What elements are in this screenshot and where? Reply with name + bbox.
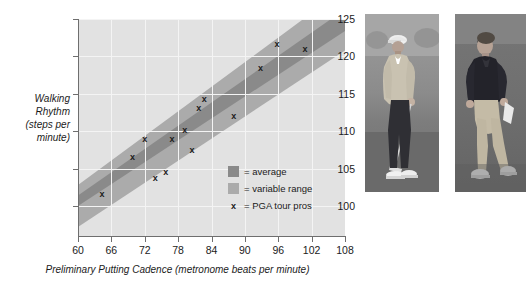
y-axis-tick-label: 110 <box>291 125 355 137</box>
legend-item-pga-tour-pros: x = PGA tour pros <box>228 197 312 214</box>
y-axis-title-line: minute) <box>0 131 70 144</box>
x-axis-tick <box>111 236 112 242</box>
data-point-marker: x <box>142 135 147 144</box>
x-axis-tick-label: 66 <box>96 244 126 256</box>
figure-root: xxxxxxxxxxxxxx 1001051101151201256066727… <box>0 0 529 288</box>
legend-item-variable-range: = variable range <box>228 180 312 197</box>
legend-label-pga-tour-pros: = PGA tour pros <box>244 200 312 211</box>
y-axis-tick <box>73 19 79 20</box>
y-axis-tick <box>73 131 79 132</box>
data-point-marker: x <box>130 152 135 161</box>
x-axis-tick <box>245 236 246 242</box>
y-axis-tick-label: 115 <box>291 88 355 100</box>
x-axis-tick <box>278 236 279 242</box>
x-axis-tick <box>78 236 79 242</box>
x-axis-title: Preliminary Putting Cadence (metronome b… <box>0 264 355 275</box>
x-axis-tick-label: 102 <box>297 244 327 256</box>
data-point-marker: x <box>275 40 280 49</box>
chart-legend: = average = variable range x = PGA tour … <box>228 163 312 214</box>
x-axis-tick-label: 96 <box>263 244 293 256</box>
legend-label-variable-range: = variable range <box>244 183 312 194</box>
data-point-marker: x <box>258 64 263 73</box>
data-point-marker: x <box>169 134 174 143</box>
y-axis-title: WalkingRhythm(steps perminute) <box>0 92 70 144</box>
data-point-marker: x <box>163 167 168 176</box>
legend-item-average: = average <box>228 163 312 180</box>
y-axis-tick <box>73 206 79 207</box>
y-axis-tick-label: 125 <box>291 13 355 25</box>
x-axis-tick <box>145 236 146 242</box>
data-point-marker: x <box>202 95 207 104</box>
legend-label-average: = average <box>244 166 287 177</box>
y-axis-title-line: Walking <box>0 92 70 105</box>
x-axis-tick <box>178 236 179 242</box>
y-axis-title-line: Rhythm <box>0 105 70 118</box>
photo-2-graphic <box>455 14 526 192</box>
data-point-marker: x <box>182 125 187 134</box>
y-axis-tick-label: 120 <box>291 50 355 62</box>
y-axis-tick <box>73 169 79 170</box>
x-axis-tick-label: 90 <box>230 244 260 256</box>
x-axis-tick-label: 72 <box>130 244 160 256</box>
x-axis-tick <box>345 236 346 242</box>
data-point-marker: x <box>196 104 201 113</box>
scatter-chart: xxxxxxxxxxxxxx 1001051101151201256066727… <box>0 0 355 288</box>
x-axis-tick-label: 60 <box>63 244 93 256</box>
photo-golfer-standing-with-putter <box>365 14 439 192</box>
x-axis-tick <box>212 236 213 242</box>
x-axis-tick <box>312 236 313 242</box>
legend-swatch-variable-range <box>228 183 239 194</box>
data-point-marker: x <box>190 145 195 154</box>
y-axis-line <box>78 19 79 236</box>
data-point-marker: x <box>99 190 104 199</box>
photo-1-graphic <box>365 14 439 192</box>
y-axis-tick <box>73 56 79 57</box>
x-axis-tick-label: 108 <box>330 244 360 256</box>
x-axis-tick-label: 78 <box>163 244 193 256</box>
photo-golfer-walking <box>455 14 526 192</box>
x-axis-tick-label: 84 <box>197 244 227 256</box>
data-point-marker: x <box>153 173 158 182</box>
data-point-marker: x <box>231 112 236 121</box>
y-axis-tick <box>73 94 79 95</box>
legend-marker-x-icon: x <box>228 201 239 211</box>
legend-swatch-average <box>228 166 239 177</box>
y-axis-title-line: (steps per <box>0 118 70 131</box>
